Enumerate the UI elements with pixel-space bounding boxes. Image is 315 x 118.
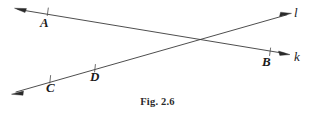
- line-l-arrowhead-right: [280, 12, 292, 16]
- line-k-group: [15, 8, 291, 56]
- label-point-b: B: [262, 55, 271, 68]
- line-k-arrowhead-left: [15, 8, 27, 12]
- figure-caption: Fig. 2.6: [0, 96, 315, 107]
- label-line-k: k: [294, 50, 300, 63]
- label-point-d: D: [90, 70, 99, 83]
- label-point-a: A: [40, 16, 49, 29]
- figure-container: A B C D l k Fig. 2.6: [0, 0, 315, 118]
- line-k-arrowhead-right: [279, 51, 291, 55]
- line-l-segment: [16, 15, 287, 92]
- label-point-c: C: [46, 81, 55, 94]
- label-line-l: l: [294, 6, 298, 19]
- line-k-segment: [18, 9, 285, 53]
